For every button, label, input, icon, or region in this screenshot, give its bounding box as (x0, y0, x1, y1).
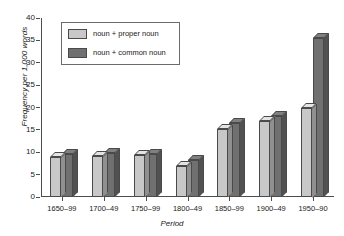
legend-item-proper-noun: noun + proper noun (68, 28, 159, 39)
legend-item-common-noun: noun + common noun (68, 47, 166, 58)
bar-side-panel (282, 111, 287, 197)
y-tick-label: 30 (5, 59, 35, 67)
bar (259, 121, 270, 197)
y-tick-label: 40 (5, 14, 35, 22)
bar-front-face (134, 155, 145, 197)
x-tick-mark (271, 197, 272, 201)
bar-front-face (50, 157, 61, 197)
bar (176, 166, 187, 197)
legend: noun + proper noun noun + common noun (61, 22, 180, 65)
bar (50, 157, 61, 197)
legend-label-common-noun: noun + common noun (93, 48, 166, 57)
y-tick-label: 20 (5, 104, 35, 112)
bar-front-face (259, 121, 270, 197)
bar-side-panel (157, 149, 162, 197)
x-tick-mark (229, 197, 230, 201)
bar (301, 108, 312, 198)
x-axis-title: Period (0, 219, 344, 228)
y-tick-label: 25 (5, 81, 35, 89)
x-tick-mark (313, 197, 314, 201)
x-tick-mark (146, 197, 147, 201)
bar (92, 156, 103, 197)
x-tick-mark (104, 197, 105, 201)
bar-side-panel (73, 149, 78, 197)
bar-side-panel (270, 116, 275, 197)
bar-front-face (301, 108, 312, 198)
bar-side-panel (61, 152, 66, 197)
legend-label-proper-noun: noun + proper noun (93, 29, 159, 38)
y-tick-label: 35 (5, 36, 35, 44)
bar-side-panel (115, 148, 120, 197)
y-tick-label: 0 (5, 193, 35, 201)
bar-side-panel (228, 124, 233, 197)
bar-front-face (176, 166, 187, 197)
legend-swatch-proper-noun (68, 29, 87, 39)
legend-swatch-common-noun (68, 48, 87, 58)
bar (134, 155, 145, 197)
bar-side-panel (324, 33, 329, 197)
bar-side-panel (103, 151, 108, 197)
x-tick-mark (188, 197, 189, 201)
bar-side-panel (145, 150, 150, 197)
bar-side-panel (312, 103, 317, 198)
bar-front-face (217, 129, 228, 197)
bar-chart: Frequency per 1,000 words 05101520253035… (0, 0, 344, 236)
bar (217, 129, 228, 197)
x-tick-mark (62, 197, 63, 201)
y-axis-line (41, 18, 42, 197)
bar-side-panel (240, 118, 245, 197)
bar-side-panel (199, 155, 204, 197)
x-tick-label: 1950–90 (285, 204, 341, 213)
y-tick-label: 5 (5, 171, 35, 179)
bar-front-face (92, 156, 103, 197)
bar-side-panel (187, 161, 192, 197)
y-tick-label: 10 (5, 148, 35, 156)
y-tick-label: 15 (5, 126, 35, 134)
